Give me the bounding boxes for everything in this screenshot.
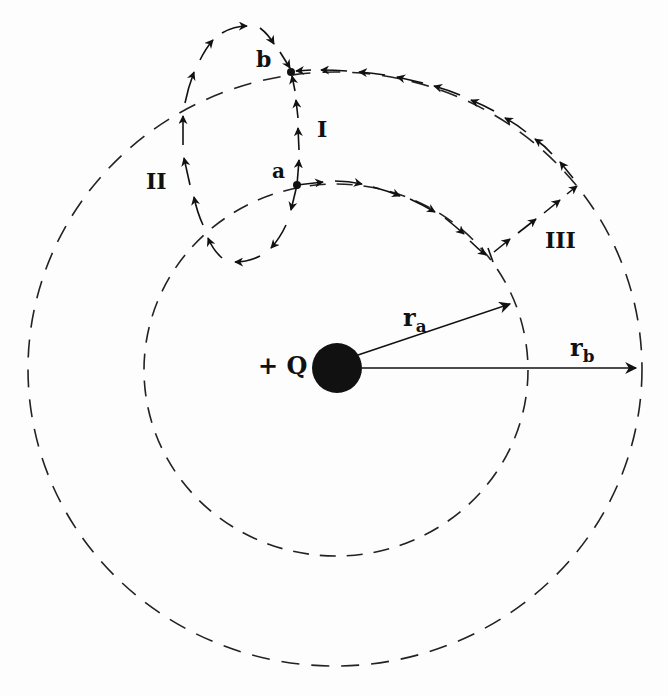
path-I-label: I bbox=[317, 118, 327, 140]
path-II bbox=[183, 26, 297, 262]
point-a-label: a bbox=[272, 161, 285, 181]
radius-rb-label: rb bbox=[570, 336, 594, 365]
radius-ra-label: ra bbox=[403, 306, 427, 335]
point-a bbox=[293, 181, 301, 189]
charge-Q bbox=[312, 343, 362, 393]
path-III-label: III bbox=[545, 229, 576, 251]
radius-ra-arrow bbox=[358, 304, 510, 355]
charge-label: + Q bbox=[258, 354, 307, 378]
point-b-label: b bbox=[256, 48, 271, 70]
diagram-svg bbox=[0, 0, 668, 696]
point-b bbox=[287, 68, 295, 76]
path-I bbox=[292, 76, 299, 185]
diagram-canvas: + Q a b I II III ra rb bbox=[0, 0, 668, 696]
path-II-label: II bbox=[146, 170, 167, 192]
path-III bbox=[296, 70, 577, 262]
